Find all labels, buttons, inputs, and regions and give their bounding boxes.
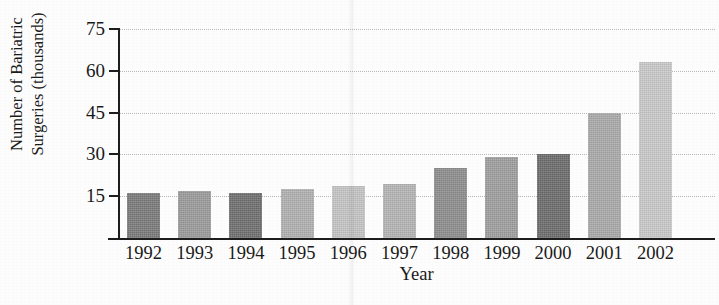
bar-2000 — [537, 154, 570, 238]
bar-texture — [127, 193, 160, 238]
y-axis-title-line-1: Number of Bariatric — [6, 0, 27, 179]
bar-1998 — [434, 168, 467, 238]
bar-texture — [281, 189, 314, 238]
x-tick-label-2002: 2002 — [627, 244, 685, 263]
y-tick-label: 60 — [86, 61, 105, 80]
bar-chart-figure: Number of Bariatric Surgeries (thousands… — [0, 0, 719, 305]
bar-texture — [485, 157, 518, 238]
x-tick-label-1998: 1998 — [422, 244, 480, 263]
x-tick-label-1995: 1995 — [268, 244, 326, 263]
x-axis-title: Year — [118, 265, 715, 284]
bar-texture — [639, 62, 672, 238]
bar-texture — [229, 193, 262, 238]
y-tick-label: 45 — [86, 103, 105, 122]
y-tick-label: 15 — [86, 186, 105, 205]
bar-texture — [383, 184, 416, 238]
x-tick-label-2001: 2001 — [575, 244, 633, 263]
y-axis-title: Number of Bariatric Surgeries (thousands… — [6, 0, 66, 179]
bar-1995 — [281, 189, 314, 238]
x-axis-line — [108, 238, 715, 240]
cropped-chart-title — [0, 0, 719, 4]
bar-1993 — [178, 191, 211, 238]
y-axis-title-line-2: Surgeries (thousands) — [27, 0, 48, 179]
x-tick-label-1997: 1997 — [371, 244, 429, 263]
bar-1994 — [229, 193, 262, 238]
x-tick-label-1999: 1999 — [473, 244, 531, 263]
x-tick-label-1992: 1992 — [115, 244, 173, 263]
bar-1992 — [127, 193, 160, 238]
bar-texture — [434, 168, 467, 238]
bar-2001 — [588, 113, 621, 238]
bar-texture — [332, 186, 365, 238]
y-tick-label: 75 — [86, 19, 105, 38]
bar-1999 — [485, 157, 518, 238]
bar-texture — [588, 113, 621, 238]
bars-layer — [118, 29, 715, 238]
x-tick-label-1994: 1994 — [217, 244, 275, 263]
bar-texture — [537, 154, 570, 238]
x-tick-label-2000: 2000 — [524, 244, 582, 263]
bar-texture — [178, 191, 211, 238]
bar-1997 — [383, 184, 416, 238]
x-tick-label-1996: 1996 — [319, 244, 377, 263]
x-tick-label-1993: 1993 — [166, 244, 224, 263]
bar-1996 — [332, 186, 365, 238]
bar-2002 — [639, 62, 672, 238]
y-tick-label: 30 — [86, 145, 105, 164]
plot-area: 1530456075 19921993199419951996199719981… — [118, 29, 715, 238]
